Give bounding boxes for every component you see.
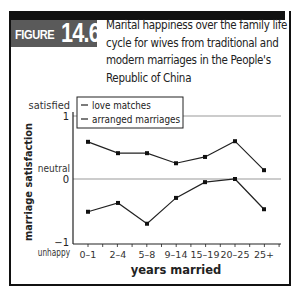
y-annotation: satisfied	[29, 100, 70, 111]
line-chart: 1satisfied0neutral−1unhappy0–12–45–89–14…	[0, 0, 298, 294]
y-annotation: unhappy	[38, 247, 70, 258]
x-tick-label: 20–25	[221, 249, 250, 260]
data-point	[203, 180, 207, 184]
data-point	[145, 151, 149, 155]
x-tick-label: 15–19	[191, 249, 220, 260]
x-tick-label: 0–1	[80, 249, 97, 260]
y-axis-title: marriage satisfaction	[22, 123, 35, 241]
series-line-love-matches	[88, 141, 264, 170]
y-tick-label: 1	[63, 111, 69, 122]
data-point	[233, 139, 237, 143]
y-annotation: neutral	[38, 163, 70, 174]
data-point	[116, 201, 120, 205]
x-tick-label: 5–8	[139, 249, 156, 260]
data-point	[174, 161, 178, 165]
legend: love matchesarranged marriages	[77, 97, 183, 128]
legend-label: love matches	[92, 100, 151, 111]
data-point	[233, 177, 237, 181]
data-point	[262, 168, 266, 172]
series-line-arranged-marriages	[88, 179, 264, 224]
data-point	[86, 140, 90, 144]
data-series	[86, 139, 266, 226]
y-tick-label: 0	[63, 174, 69, 185]
data-point	[86, 210, 90, 214]
data-point	[174, 196, 178, 200]
data-point	[116, 151, 120, 155]
x-tick-label: 25+	[254, 249, 274, 260]
data-point	[145, 222, 149, 226]
x-tick-label: 2–4	[110, 249, 127, 260]
data-point	[262, 207, 266, 211]
x-axis-title: years married	[131, 263, 222, 277]
data-point	[203, 155, 207, 159]
legend-label: arranged marriages	[92, 114, 180, 125]
x-tick-label: 9–14	[165, 249, 188, 260]
